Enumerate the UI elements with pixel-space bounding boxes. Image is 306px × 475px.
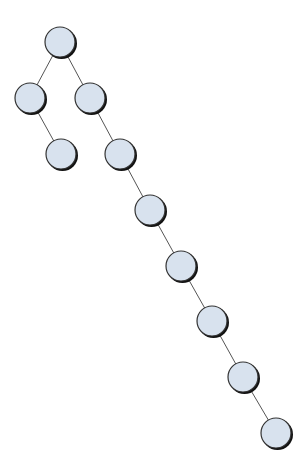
tree-node — [228, 362, 260, 394]
tree-svg — [0, 0, 306, 475]
tree-node — [166, 251, 198, 283]
tree-node — [135, 195, 167, 227]
tree-node — [46, 139, 78, 171]
tree-diagram — [0, 0, 306, 475]
node-circle-n2 — [75, 83, 105, 113]
tree-node — [75, 83, 107, 115]
tree-node — [261, 418, 293, 450]
node-circle-n9 — [261, 418, 291, 448]
node-circle-n1 — [15, 83, 45, 113]
node-circle-n4 — [105, 139, 135, 169]
node-circle-n6 — [166, 251, 196, 281]
node-circle-n8 — [228, 362, 258, 392]
tree-node — [105, 139, 137, 171]
tree-node — [197, 306, 229, 338]
node-circle-n7 — [197, 306, 227, 336]
nodes-layer — [15, 27, 293, 450]
node-circle-n3 — [46, 139, 76, 169]
tree-node — [15, 83, 47, 115]
tree-node — [45, 27, 77, 59]
node-circle-n5 — [135, 195, 165, 225]
node-circle-n0 — [45, 27, 75, 57]
